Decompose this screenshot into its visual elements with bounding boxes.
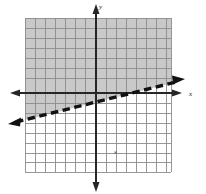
- boundary-line-left-arrow: [8, 118, 21, 127]
- y-axis-label: y: [98, 3, 103, 11]
- x-axis-left-arrow: [10, 90, 20, 97]
- boundary-line-right-arrow: [172, 76, 185, 85]
- x-axis-right-arrow: [172, 90, 182, 97]
- graph-screenshot: x y: [0, 0, 206, 194]
- coordinate-plane-figure: x y: [0, 0, 206, 194]
- grid-dot-marker: [115, 152, 118, 155]
- x-axis-label: x: [188, 90, 193, 98]
- y-axis-bottom-arrow: [93, 182, 100, 192]
